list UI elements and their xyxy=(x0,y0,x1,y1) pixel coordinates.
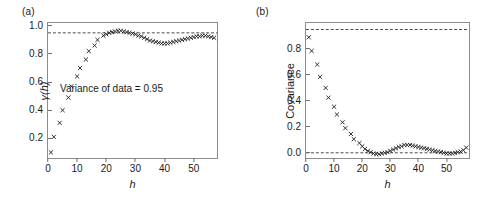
data-point xyxy=(171,40,175,44)
data-point xyxy=(180,38,184,42)
data-point xyxy=(197,34,201,38)
data-point xyxy=(332,105,336,109)
data-point xyxy=(326,96,330,100)
x-tick-label: 40 xyxy=(159,158,170,174)
data-point xyxy=(315,62,319,66)
data-point xyxy=(119,29,123,33)
data-point xyxy=(318,75,322,79)
data-point xyxy=(340,120,344,124)
x-tick-label: 50 xyxy=(188,158,199,174)
x-tick-label: 30 xyxy=(385,158,396,174)
panel-b: (b) 0.00.20.40.60.8 01020304050 Covarian… xyxy=(246,0,492,203)
data-point xyxy=(168,41,172,45)
x-tick-label: 50 xyxy=(441,158,452,174)
panel-a-x-axis-label: h xyxy=(48,178,217,190)
data-point xyxy=(75,74,79,78)
x-tick-label: 20 xyxy=(357,158,368,174)
data-point xyxy=(165,41,169,45)
x-tick-label: 10 xyxy=(72,158,83,174)
y-tick-label: 0.2 xyxy=(287,122,306,132)
data-point xyxy=(464,146,468,150)
data-point xyxy=(310,49,314,53)
data-point xyxy=(125,30,129,34)
data-point xyxy=(84,57,88,61)
marker-group xyxy=(307,35,469,156)
data-point xyxy=(95,38,99,42)
y-tick-label: 0.8 xyxy=(287,44,306,54)
data-point xyxy=(60,108,64,112)
panel-a-tag: (a) xyxy=(22,6,35,17)
figure-container: (a) 0.20.40.60.81.0 01020304050 γ(h) h V… xyxy=(0,0,492,203)
panel-b-plot-inner xyxy=(306,23,469,158)
panel-b-x-axis-label: h xyxy=(306,178,469,190)
data-point xyxy=(110,30,114,34)
y-tick-label: 0.0 xyxy=(287,148,306,158)
panel-a: (a) 0.20.40.60.81.0 01020304050 γ(h) h V… xyxy=(0,0,246,203)
data-point xyxy=(93,43,97,47)
y-tick-label: 1.0 xyxy=(29,21,48,31)
data-point xyxy=(212,36,216,40)
y-tick-label: 0.4 xyxy=(29,105,48,115)
data-point xyxy=(307,35,311,39)
data-point xyxy=(186,36,190,40)
x-tick-label: 30 xyxy=(130,158,141,174)
data-point xyxy=(58,121,62,125)
data-point xyxy=(87,49,91,53)
data-point xyxy=(206,34,210,38)
panel-a-annotation: Variance of data = 0.95 xyxy=(60,83,163,94)
data-point xyxy=(66,95,70,99)
data-point xyxy=(335,112,339,116)
data-point xyxy=(324,86,328,90)
panel-a-y-axis-label: γ(h) xyxy=(38,81,50,100)
data-point xyxy=(130,31,134,35)
panel-b-plot-area: 0.00.20.40.60.8 01020304050 Covariance h xyxy=(305,22,470,159)
data-point xyxy=(352,137,356,141)
data-point xyxy=(183,37,187,41)
panel-b-tag: (b) xyxy=(256,6,269,17)
data-point xyxy=(349,132,353,136)
x-tick-label: 10 xyxy=(329,158,340,174)
panel-b-y-axis-label: Covariance xyxy=(284,63,296,119)
x-tick-label: 20 xyxy=(101,158,112,174)
y-tick-label: 0.2 xyxy=(29,133,48,143)
data-point xyxy=(209,35,213,39)
x-tick-label: 40 xyxy=(413,158,424,174)
data-point xyxy=(189,36,193,40)
y-tick-label: 0.8 xyxy=(29,49,48,59)
data-point xyxy=(78,66,82,70)
data-point xyxy=(192,35,196,39)
data-point xyxy=(157,41,161,45)
data-point xyxy=(154,40,158,44)
x-tick-label: 0 xyxy=(45,158,51,174)
panel-b-data-layer xyxy=(306,23,469,158)
data-point xyxy=(203,34,207,38)
x-tick-label: 0 xyxy=(303,158,309,174)
data-point xyxy=(49,150,53,154)
data-point xyxy=(343,126,347,130)
data-point xyxy=(151,39,155,43)
data-point xyxy=(52,135,56,139)
data-point xyxy=(177,39,181,43)
data-point xyxy=(174,39,178,43)
